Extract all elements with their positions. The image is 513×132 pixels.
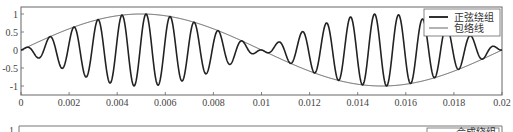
x-tick-label: 0.018 <box>443 97 466 108</box>
y-tick-label: 0 <box>13 45 18 56</box>
x-tick-label: 0.02 <box>493 97 511 108</box>
legend: 正弦绕组 包络线 <box>424 9 500 36</box>
legend-label-sine-winding: 正弦绕组 <box>454 11 494 23</box>
x-tick-label: 0.012 <box>298 97 321 108</box>
y-tick-label: 0.5 <box>6 27 19 38</box>
x-tick-label: 0.008 <box>202 97 225 108</box>
x-tick-label: 0.004 <box>106 97 129 108</box>
lower-panel: 1 合成绕组 <box>9 125 502 132</box>
x-tick-label: 0.01 <box>253 97 271 108</box>
x-tick-label: 0 <box>19 97 24 108</box>
lower-panel-y-tick: 1 <box>9 125 14 132</box>
legend-label-envelope: 包络线 <box>454 22 484 34</box>
x-tick-label: 0.014 <box>346 97 369 108</box>
x-tick-label: 0.002 <box>58 97 81 108</box>
y-tick-label: -1 <box>10 81 18 92</box>
y-tick-label: -0.5 <box>2 63 18 74</box>
x-tick-label: 0.016 <box>395 97 418 108</box>
x-tick-label: 0.006 <box>154 97 177 108</box>
y-tick-label: 1 <box>13 9 18 20</box>
chart-figure: 10.50-0.5-1 00.0020.0040.0060.0080.010.0… <box>0 0 513 132</box>
lower-legend-label: 合成绕组 <box>456 126 496 132</box>
